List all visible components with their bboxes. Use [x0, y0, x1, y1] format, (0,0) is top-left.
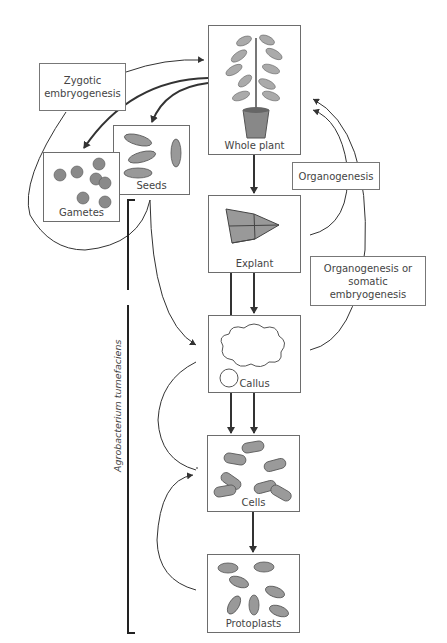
label-organogenesis: Organogenesis: [292, 162, 380, 190]
potted-plant-icon: [209, 26, 302, 156]
node-label: Protoplasts: [208, 618, 299, 630]
label-organogenesis-or-somatic-embryogenesis: Organogenesis or somatic embryogenesis: [310, 256, 426, 306]
node-protoplasts: Protoplasts: [207, 554, 300, 633]
node-label: Seeds: [114, 180, 189, 192]
node-label: Gametes: [44, 207, 119, 219]
node-label: Cells: [208, 497, 299, 509]
node-seeds: Seeds: [113, 125, 190, 195]
node-explant: Explant: [208, 195, 301, 273]
node-whole-plant: Whole plant: [208, 25, 301, 155]
label-zygotic-embryogenesis: Zygotic embryogenesis: [39, 63, 126, 111]
node-callus: Callus: [208, 315, 301, 393]
node-gametes: Gametes: [43, 152, 120, 222]
bracket-label-agrobacterium: Agrobacterium tumefaciens: [112, 340, 123, 472]
node-label: Callus: [209, 378, 300, 390]
node-cells: Cells: [207, 435, 300, 512]
node-label: Whole plant: [209, 140, 300, 152]
node-label: Explant: [209, 258, 300, 270]
